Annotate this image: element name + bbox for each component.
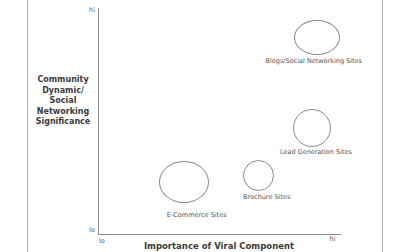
y-axis-title: Community Dynamic/ Social Networking Sig…: [28, 75, 98, 128]
bubble-label: E-Commerce Sites: [167, 212, 227, 219]
bubble: [159, 161, 209, 203]
plot-area: Blogs/Social Networking SitesLead Genera…: [98, 8, 341, 235]
y-axis-hi-tick: hi: [80, 7, 95, 14]
y-axis-lo-tick: lo: [80, 227, 95, 234]
bubble-chart-page: Community Dynamic/ Social Networking Sig…: [0, 0, 400, 252]
x-axis-title: Importance of Viral Component: [98, 241, 340, 251]
bubble: [243, 160, 274, 191]
y-axis-title-line: Dynamic/: [28, 86, 98, 97]
bubble: [293, 109, 331, 147]
y-axis-title-line: Significance: [28, 117, 98, 128]
y-axis-title-line: Networking: [28, 107, 98, 118]
bubble-label: Lead Generation Sites: [280, 149, 352, 156]
bubble: [294, 20, 340, 55]
y-axis-title-line: Social: [28, 96, 98, 107]
page-right-border: [382, 0, 383, 252]
bubble-label: Blogs/Social Networking Sites: [266, 58, 362, 65]
y-axis-title-line: Community: [28, 75, 98, 86]
bubble-label: Brochure Sites: [243, 194, 290, 201]
